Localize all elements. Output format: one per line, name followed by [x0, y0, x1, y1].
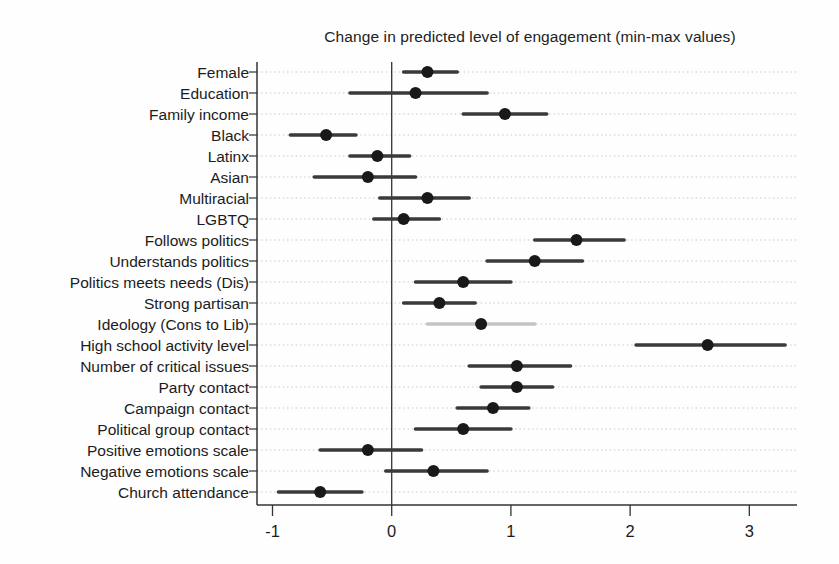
estimate-dot: [511, 381, 523, 393]
estimate-dot: [433, 297, 445, 309]
x-tick-label: -1: [265, 522, 280, 540]
estimate-dot: [702, 339, 714, 351]
category-label: Multiracial: [179, 190, 249, 207]
category-label: LGBTQ: [196, 211, 249, 228]
estimate-dot: [457, 276, 469, 288]
category-label: Follows politics: [145, 232, 249, 249]
estimate-dot: [398, 213, 410, 225]
category-label: Negative emotions scale: [80, 463, 249, 480]
category-label: Asian: [210, 169, 249, 186]
category-label: Political group contact: [97, 421, 249, 438]
category-label: Campaign contact: [124, 400, 250, 417]
estimate-dot: [427, 465, 439, 477]
estimate-dot: [371, 150, 383, 162]
category-label: Education: [180, 85, 249, 102]
category-label: Politics meets needs (Dis): [70, 274, 249, 291]
estimate-dot: [511, 360, 523, 372]
x-tick-label: 2: [626, 522, 635, 540]
estimate-dot: [362, 444, 374, 456]
x-tick-label: 0: [387, 522, 396, 540]
estimate-dot: [499, 108, 511, 120]
category-label: Positive emotions scale: [87, 442, 249, 459]
estimate-dot: [529, 255, 541, 267]
category-label: Number of critical issues: [80, 358, 249, 375]
estimate-dot: [421, 192, 433, 204]
category-label: Party contact: [159, 379, 250, 396]
category-label: Church attendance: [118, 484, 249, 501]
category-label: Black: [211, 127, 249, 144]
category-label: Ideology (Cons to Lib): [97, 316, 249, 333]
estimate-dot: [475, 318, 487, 330]
estimate-dot: [362, 171, 374, 183]
category-label: Latinx: [208, 148, 250, 165]
x-tick-label: 3: [745, 522, 754, 540]
category-label: Strong partisan: [144, 295, 249, 312]
category-label: Female: [197, 64, 249, 81]
x-tick-label: 1: [506, 522, 515, 540]
estimate-dot: [487, 402, 499, 414]
estimate-dot: [314, 486, 326, 498]
estimate-dot: [320, 129, 332, 141]
category-label: High school activity level: [80, 337, 249, 354]
estimate-dot: [457, 423, 469, 435]
estimate-dot: [410, 87, 422, 99]
estimate-dot: [570, 234, 582, 246]
estimate-dot: [421, 66, 433, 78]
category-label: Understands politics: [109, 253, 249, 270]
figure: Change in predicted level of engagement …: [0, 0, 839, 564]
coefficient-plot: -10123FemaleEducationFamily incomeBlackL…: [0, 0, 839, 564]
category-label: Family income: [149, 106, 249, 123]
